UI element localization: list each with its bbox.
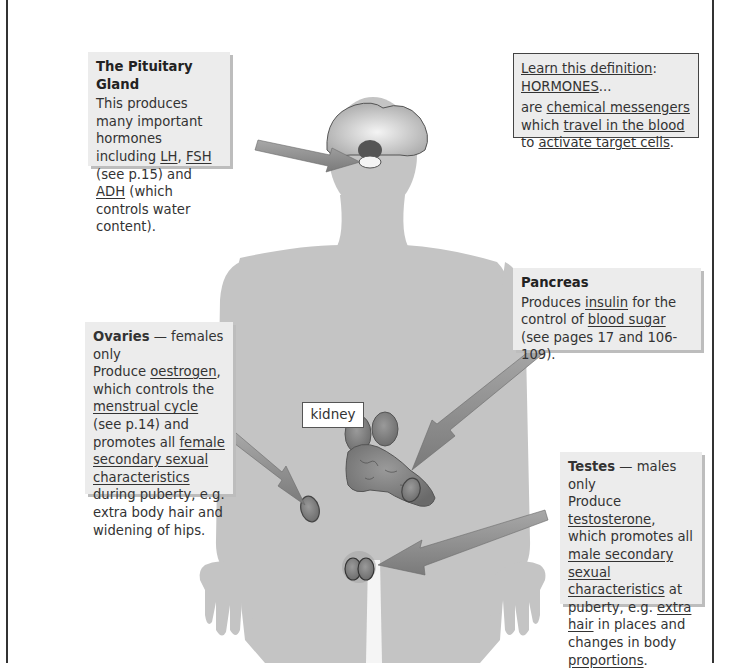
term-lh: LH xyxy=(160,149,177,164)
definition-box: Learn this definition: HORMONES... are c… xyxy=(513,53,699,138)
pancreas-info-box: Pancreas Produces insulin for the contro… xyxy=(513,268,701,350)
ovaries-heading: Ovaries — females only xyxy=(93,328,227,363)
testes-heading: Testes — males only xyxy=(568,458,696,493)
pituitary-info-box: The Pituitary Gland This produces many i… xyxy=(88,52,230,166)
testes-text: Produce testosterone, which promotes all… xyxy=(568,493,696,669)
testes-icon xyxy=(342,551,376,583)
pituitary-title: The Pituitary Gland xyxy=(96,58,224,93)
pituitary-text: This produces many important hormones in… xyxy=(96,95,224,236)
definition-term: HORMONES... xyxy=(521,78,691,96)
term-adh: ADH xyxy=(96,184,125,199)
kidney-label: kidney xyxy=(302,402,364,428)
definition-line-3: to activate target cells. xyxy=(521,134,691,152)
pancreas-title: Pancreas xyxy=(521,274,695,292)
ovaries-text: Produce oestrogen, which controls the me… xyxy=(93,363,227,539)
term-fsh: FSH xyxy=(186,149,212,164)
ovaries-info-box: Ovaries — females only Produce oestrogen… xyxy=(85,322,233,494)
definition-line-2: which travel in the blood xyxy=(521,117,691,135)
definition-line-1: are chemical messengers xyxy=(521,99,691,117)
pancreas-text: Produces insulin for the control of bloo… xyxy=(521,294,695,364)
testes-info-box: Testes — males only Produce testosterone… xyxy=(560,452,702,604)
pituitary-gland-icon xyxy=(359,156,381,168)
definition-intro: Learn this definition: xyxy=(521,60,691,78)
